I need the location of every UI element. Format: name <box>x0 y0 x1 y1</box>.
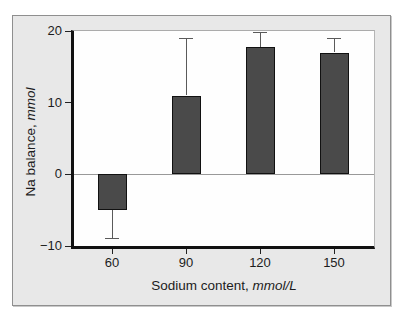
y-tick-20 <box>65 31 71 32</box>
y-tick-label--10: −10 <box>26 238 62 254</box>
error-bar-60 <box>112 210 113 239</box>
bar-150 <box>320 53 349 175</box>
x-tick-label-60: 60 <box>90 255 134 271</box>
x-axis-label: Sodium content, mmol/L <box>74 278 374 293</box>
error-bar-90 <box>186 38 187 95</box>
y-tick-label-20: 20 <box>26 23 62 39</box>
x-tick-90 <box>186 249 187 254</box>
error-bar-cap-90 <box>179 38 193 39</box>
error-bar-150 <box>334 38 335 52</box>
x-tick-label-120: 120 <box>238 255 282 271</box>
y-axis-label-text: Na balance, <box>23 124 38 196</box>
x-tick-60 <box>112 249 113 254</box>
chart-frame: 20100−106090120150 Na balance, mmol Sodi… <box>12 15 391 306</box>
x-axis-label-text: Sodium content, <box>151 278 249 293</box>
x-axis-unit: mmol/L <box>253 278 297 293</box>
y-tick-10 <box>65 102 71 103</box>
y-axis-unit: mmol <box>23 88 38 121</box>
plot-area <box>71 30 375 249</box>
error-bar-cap-60 <box>105 238 119 239</box>
error-bar-cap-150 <box>327 38 341 39</box>
x-tick-label-150: 150 <box>312 255 356 271</box>
bar-90 <box>172 96 201 175</box>
error-bar-cap-120 <box>253 32 267 33</box>
x-tick-120 <box>260 249 261 254</box>
x-tick-150 <box>334 249 335 254</box>
y-axis-label: Na balance, mmol <box>23 88 38 197</box>
error-bar-120 <box>260 32 261 46</box>
bar-120 <box>246 47 275 175</box>
bar-60 <box>98 174 127 210</box>
x-tick-label-90: 90 <box>164 255 208 271</box>
y-tick-0 <box>65 174 71 175</box>
y-tick--10 <box>65 246 71 247</box>
figure-canvas: { "chart_data": { "type": "bar", "title"… <box>0 0 406 321</box>
